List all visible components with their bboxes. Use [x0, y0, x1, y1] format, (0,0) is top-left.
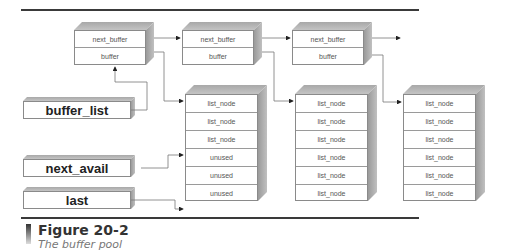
connector-arrows	[0, 0, 509, 252]
figure-number: Figure 20-2	[38, 222, 129, 238]
figure-caption: The buffer pool	[38, 238, 122, 251]
figure-marker	[26, 224, 31, 244]
